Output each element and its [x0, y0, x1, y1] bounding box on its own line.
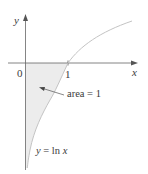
area-label: area = 1 — [67, 89, 101, 100]
origin-label: 0 — [17, 68, 23, 79]
plot-canvas — [0, 0, 148, 174]
tick-label-1: 1 — [65, 69, 71, 80]
curve-label-x: x — [63, 145, 68, 156]
curve-label: y = ln x — [36, 146, 67, 157]
curve-label-y: y — [36, 145, 41, 156]
y-axis-arrow-icon — [23, 14, 28, 21]
ln-area-figure: y x 0 1 area = 1 y = ln x — [0, 0, 148, 174]
x-axis-label: x — [132, 67, 137, 78]
curve-label-eq: = ln — [43, 145, 60, 156]
x-axis-arrow-icon — [131, 61, 138, 66]
y-axis-label: y — [14, 15, 19, 26]
